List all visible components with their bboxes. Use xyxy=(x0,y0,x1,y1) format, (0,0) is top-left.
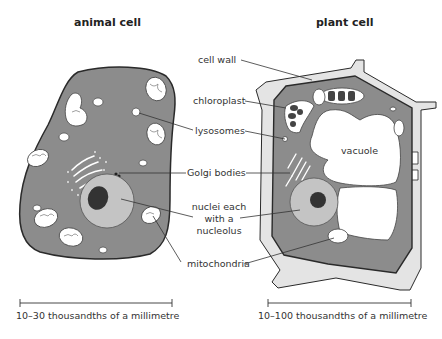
lysosome xyxy=(132,108,140,116)
plant-nucleolus xyxy=(310,192,326,208)
plant-cell xyxy=(256,60,436,290)
lysosome xyxy=(59,133,69,141)
lysosome xyxy=(139,160,147,166)
lysosome xyxy=(33,205,41,211)
animal-cell xyxy=(20,67,175,259)
label-cell-wall: cell wall xyxy=(198,54,236,66)
label-nuclei-line3: nucleolus xyxy=(188,225,250,237)
lysosome xyxy=(93,98,103,106)
label-mitochondria: mitochondria xyxy=(187,258,250,270)
plant-cell-title: plant cell xyxy=(316,16,374,29)
label-chloroplast: chloroplast xyxy=(193,95,245,107)
mitochondrion xyxy=(328,229,348,243)
animal-cell-title: animal cell xyxy=(74,16,141,29)
animal-scale-label: 10–30 thousandths of a millimetre xyxy=(16,310,179,321)
mitochondrion xyxy=(394,120,404,136)
lysosome xyxy=(390,107,396,111)
plant-scale-label: 10–100 thousandths of a millimetre xyxy=(258,310,427,321)
label-nuclei-line2: with a xyxy=(188,213,250,225)
label-lysosomes: lysosomes xyxy=(195,125,245,137)
label-vacuole: vacuole xyxy=(341,145,378,157)
label-nuclei: nuclei each with a nucleolus xyxy=(188,201,250,237)
chloroplast xyxy=(320,88,364,104)
scale-bars xyxy=(20,299,411,307)
mitochondrion xyxy=(313,89,325,105)
label-golgi-bodies: Golgi bodies xyxy=(187,167,246,179)
label-nuclei-line1: nuclei each xyxy=(188,201,250,213)
lysosome xyxy=(99,247,107,253)
